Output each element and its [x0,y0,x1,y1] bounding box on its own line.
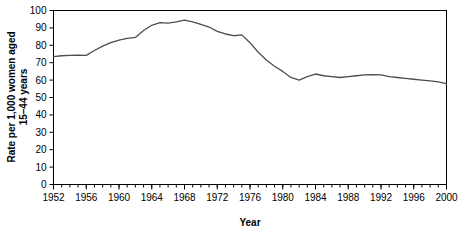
y-tick-label: 10 [35,162,47,173]
x-tick-label: 1992 [370,192,393,203]
x-tick-label: 1968 [173,192,196,203]
x-tick-label: 2000 [435,192,458,203]
x-tick-label: 1988 [337,192,360,203]
x-tick-label: 1960 [108,192,131,203]
x-tick-label: 1952 [42,192,65,203]
y-tick-label: 20 [35,144,47,155]
x-tick-label: 1984 [304,192,327,203]
y-axis-title-line1: Rate per 1,000 women aged [6,31,17,162]
x-axis-title: Year [239,217,260,228]
y-tick-label: 60 [35,75,47,86]
x-tick-label: 1996 [403,192,426,203]
y-tick-label: 100 [30,5,47,16]
x-tick-label: 1964 [141,192,164,203]
x-tick-label: 1972 [206,192,229,203]
y-tick-label: 80 [35,40,47,51]
x-tick-label: 1976 [239,192,262,203]
y-tick-label: 70 [35,57,47,68]
y-tick-label: 0 [41,179,47,190]
y-axis-title-line2: 15–44 years [18,68,29,125]
fertility-rate-line-chart: 0102030405060708090100 19521956196019641… [0,0,471,233]
y-tick-label: 50 [35,92,47,103]
y-tick-label: 30 [35,127,47,138]
y-tick-label: 90 [35,22,47,33]
y-tick-label: 40 [35,109,47,120]
chart-container: 0102030405060708090100 19521956196019641… [0,0,471,233]
x-tick-label: 1956 [75,192,98,203]
x-tick-label: 1980 [272,192,295,203]
